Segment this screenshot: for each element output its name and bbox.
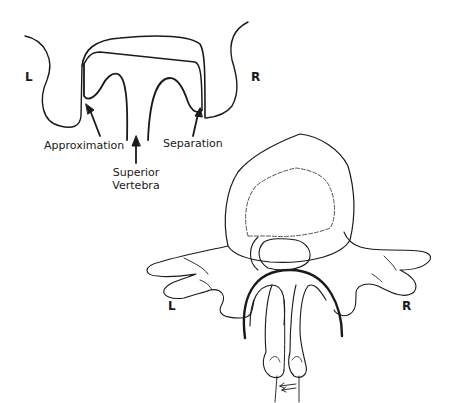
right-transverse-inner2: [372, 274, 382, 282]
right-transverse-process: [334, 232, 431, 316]
spinous-process-right: [289, 285, 326, 377]
superior-vertebra-label-line2: Vertebra: [112, 179, 160, 192]
spinous-tip-detail-r: [292, 356, 302, 362]
top-right-side-label: R: [251, 71, 260, 84]
superior-vertebra-outer: [82, 36, 205, 118]
left-transverse-inner: [184, 258, 208, 274]
superior-vertebra-label: Superior Vertebra: [112, 166, 160, 192]
spinous-process-left: [263, 285, 284, 378]
left-pedicle: [251, 237, 259, 270]
left-facet-curve: [84, 64, 127, 140]
spinous-tip-detail-l: [270, 356, 280, 362]
ligament-arrows-icon: [280, 383, 296, 392]
superior-vertebra-label-line1: Superior: [112, 166, 160, 179]
vertebral-body: [225, 134, 354, 262]
vertebral-body-inner-dashed: [246, 168, 335, 237]
ligament-line-left: [275, 376, 277, 402]
superior-vertebra-inner: [84, 52, 202, 110]
right-transverse-inner: [384, 256, 396, 270]
right-inferior-contour: [206, 22, 248, 118]
spinous-midline: [284, 300, 285, 370]
bottom-left-side-label: L: [168, 300, 176, 313]
separation-arrow-icon: [193, 108, 202, 136]
superior-vertebra-arrow-icon: [132, 136, 140, 163]
spine-diagram-canvas: [0, 0, 455, 403]
left-transverse-process: [147, 246, 254, 318]
left-inferior-contour: [25, 36, 82, 127]
approximation-label: Approximation: [44, 139, 124, 152]
bottom-vertebra-diagram: [147, 134, 431, 402]
approximation-arrow-icon: [86, 104, 100, 136]
spinal-canal-oval: [259, 239, 310, 270]
separation-label: Separation: [163, 137, 223, 150]
top-left-side-label: L: [25, 71, 33, 84]
left-transverse-inner2: [200, 280, 212, 290]
bottom-right-side-label: R: [402, 300, 411, 313]
